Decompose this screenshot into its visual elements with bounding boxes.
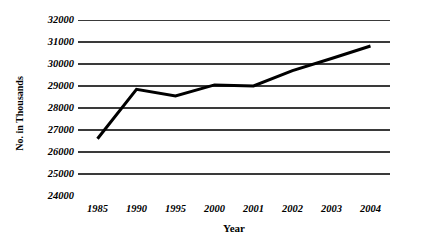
plot-svg <box>78 20 390 196</box>
gridlines <box>78 20 390 196</box>
y-tick-label: 31000 <box>22 37 74 47</box>
x-axis-title: Year <box>78 222 390 234</box>
x-axis-tick-labels: 19851990199520002001200220032004 <box>78 203 390 219</box>
y-axis-tick-labels: 3200031000300002900028000270002600025000… <box>22 0 74 247</box>
plot-area <box>78 20 390 196</box>
y-tick-label: 24000 <box>22 191 74 201</box>
y-tick-label: 29000 <box>22 81 74 91</box>
y-tick-label: 30000 <box>22 59 74 69</box>
y-tick-label: 32000 <box>22 15 74 25</box>
y-tick-label: 25000 <box>22 169 74 179</box>
y-tick-label: 28000 <box>22 103 74 113</box>
y-tick-label: 27000 <box>22 125 74 135</box>
y-tick-label: 26000 <box>22 147 74 157</box>
x-tick-label: 2004 <box>348 203 394 214</box>
data-series-line <box>98 46 371 139</box>
line-chart: No. in Thousands 32000310003000029000280… <box>0 0 422 247</box>
